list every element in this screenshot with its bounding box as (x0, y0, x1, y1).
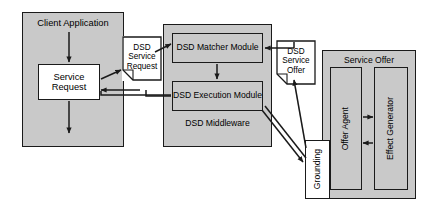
container-client-application-label: Client Application (23, 18, 123, 28)
note-line-1: DSD (276, 47, 316, 57)
box-effect-generator: Effect Generator (374, 67, 408, 190)
box-grounding: Grounding (305, 140, 330, 199)
note-line-2: Service (276, 56, 316, 66)
diagram-canvas: Client Application Service Request DSD M… (0, 0, 426, 216)
note-dsd-service-request-text: DSD Service Request (122, 43, 162, 75)
container-service-offer-label: Service Offer (323, 56, 415, 66)
box-dsd-matcher-module: DSD Matcher Module (172, 33, 263, 63)
note-line-3: Request (122, 62, 162, 72)
note-dsd-service-offer-text: DSD Service Offer (276, 47, 316, 79)
arrow-grounding-to-offer-note (294, 80, 306, 148)
box-dsd-execution-module: DSD Execution Module (172, 81, 263, 111)
box-service-request: Service Request (38, 64, 100, 100)
note-line-1: DSD (122, 43, 162, 53)
box-offer-agent: Offer Agent (330, 67, 362, 190)
note-line-2: Service (122, 52, 162, 62)
container-dsd-middleware-label: DSD Middleware (164, 119, 271, 129)
box-effect-generator-label: Effect Generator (386, 97, 396, 160)
note-line-3: Offer (276, 66, 316, 76)
note-dsd-service-request: DSD Service Request (122, 36, 162, 81)
box-offer-agent-label: Offer Agent (341, 107, 351, 150)
note-dsd-service-offer: DSD Service Offer (276, 40, 316, 85)
box-grounding-label: Grounding (313, 149, 323, 189)
